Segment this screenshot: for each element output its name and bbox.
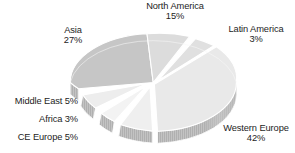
pie-label-north-america-name: North America (146, 1, 204, 11)
pie-label-western-europe-name: Western Europe (223, 123, 289, 133)
pie-label-latin-america: Latin America 3% (219, 24, 293, 45)
pie-label-latin-america-value: 3% (219, 34, 293, 44)
pie-label-western-europe: Western Europe 42% (219, 123, 293, 144)
pie-label-middle-east-text: Middle East 5% (15, 96, 78, 106)
pie-chart-figure: North America 15% Latin America 3% Asia … (0, 0, 295, 153)
pie-label-asia-value: 27% (52, 35, 94, 45)
pie-slices (70, 33, 236, 131)
pie-label-africa: Africa 3% (20, 114, 78, 124)
pie-label-north-america: North America 15% (138, 1, 212, 22)
pie-label-asia: Asia 27% (52, 25, 94, 46)
pie-label-north-america-value: 15% (138, 11, 212, 21)
pie-label-western-europe-value: 42% (219, 133, 293, 143)
pie-label-latin-america-name: Latin America (228, 24, 283, 34)
pie-label-middle-east: Middle East 5% (2, 96, 78, 106)
pie-label-asia-name: Asia (64, 25, 82, 35)
pie-label-ce-europe: CE Europe 5% (8, 132, 78, 142)
pie-label-africa-text: Africa 3% (39, 114, 78, 124)
pie-label-ce-europe-text: CE Europe 5% (18, 132, 78, 142)
